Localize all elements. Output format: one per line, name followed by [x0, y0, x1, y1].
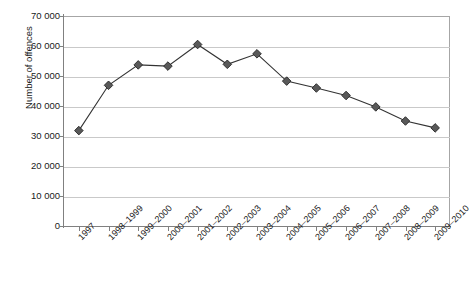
x-axis-tick — [109, 227, 110, 231]
x-axis-tick — [376, 227, 377, 231]
data-point-marker — [401, 117, 410, 126]
y-axis-tick — [59, 16, 64, 17]
y-axis-tick — [59, 166, 64, 167]
x-axis-tick — [316, 227, 317, 231]
data-point-marker — [431, 124, 440, 133]
data-point-marker — [342, 91, 351, 100]
x-axis-tick — [257, 227, 258, 231]
y-axis-tick — [59, 106, 64, 107]
x-axis-tick — [435, 227, 436, 231]
x-axis-tick — [168, 227, 169, 231]
y-axis-tick — [59, 136, 64, 137]
data-point-marker — [104, 81, 113, 90]
x-axis-tick — [406, 227, 407, 231]
data-point-marker — [223, 60, 232, 69]
data-point-marker — [164, 62, 173, 71]
x-axis-tick — [346, 227, 347, 231]
data-point-marker — [75, 126, 84, 135]
series-markers — [75, 40, 440, 135]
y-axis-tick — [59, 46, 64, 47]
data-point-marker — [193, 40, 202, 49]
y-axis-tick — [59, 76, 64, 77]
x-axis-tick — [79, 227, 80, 231]
data-point-marker — [371, 103, 380, 112]
x-axis-tick — [138, 227, 139, 231]
y-axis-tick — [59, 196, 64, 197]
x-axis-tick — [287, 227, 288, 231]
x-axis-tick — [198, 227, 199, 231]
data-point-marker — [134, 61, 143, 70]
x-axis-tick — [227, 227, 228, 231]
data-point-marker — [312, 84, 321, 93]
y-axis-tick — [59, 226, 64, 227]
